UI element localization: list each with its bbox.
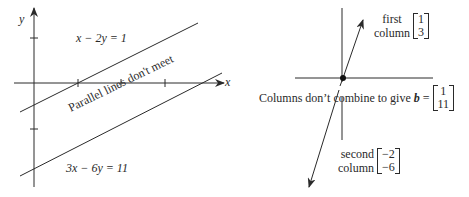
second-column-label: second column −2 −6: [338, 147, 400, 175]
y-axis-label: y: [19, 13, 24, 26]
caption-equals: =: [423, 91, 430, 105]
second-column-text-1: second: [338, 147, 374, 161]
first-column-text-2: column: [374, 26, 410, 40]
second-column-text-2: column: [338, 161, 374, 175]
first-column-label: first column 1 3: [374, 12, 429, 40]
caption: Columns don’t combine to give b = 1 11: [259, 85, 454, 111]
first-column-matrix: 1 3: [413, 13, 429, 39]
caption-matrix: 1 11: [433, 85, 455, 111]
caption-symbol-b: b: [414, 91, 420, 105]
equation-label-1: x − 2y = 1: [76, 32, 127, 45]
origin-dot: [340, 75, 346, 81]
first-column-text-1: first: [374, 12, 410, 26]
x-axis-label: x: [225, 76, 230, 89]
equation-label-2: 3x − 6y = 11: [66, 162, 128, 175]
caption-text: Columns don’t combine to give: [259, 91, 411, 105]
second-column-matrix: −2 −6: [377, 148, 400, 174]
first-column-vector: [343, 20, 363, 78]
